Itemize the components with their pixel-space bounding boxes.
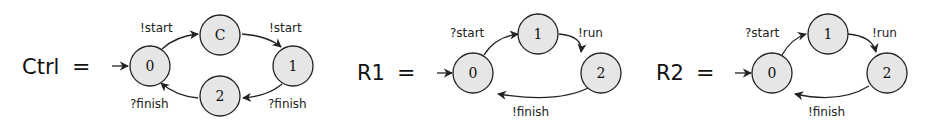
svg-text:2: 2 bbox=[597, 65, 606, 81]
state-node: 0 bbox=[752, 53, 792, 93]
automaton-name: Ctrl bbox=[22, 55, 59, 79]
transition-edge bbox=[782, 34, 806, 55]
automaton-ctrl: Ctrl = !start !start ?finish ?finish 0 C… bbox=[22, 15, 313, 116]
transition-edge bbox=[795, 86, 869, 98]
automaton-r1: R1 = ?start !run !finish 0 1 2 bbox=[357, 14, 621, 119]
transition-label: ?start bbox=[745, 26, 780, 40]
svg-text:C: C bbox=[215, 27, 226, 43]
state-node: 1 bbox=[808, 14, 848, 54]
transition-edge bbox=[484, 34, 518, 55]
equals-sign: = bbox=[696, 60, 714, 85]
svg-text:1: 1 bbox=[534, 26, 543, 42]
transition-label: ?finish bbox=[268, 97, 307, 111]
transition-label: !run bbox=[872, 26, 897, 40]
equals-sign: = bbox=[72, 54, 90, 79]
state-node: 0 bbox=[453, 53, 493, 93]
transition-edge bbox=[498, 86, 592, 98]
transition-label: ?finish bbox=[130, 97, 169, 111]
transition-label: !run bbox=[578, 26, 603, 40]
svg-text:2: 2 bbox=[883, 65, 892, 81]
transition-label: !start bbox=[140, 21, 173, 35]
transition-label: !finish bbox=[808, 105, 845, 119]
transition-edge bbox=[161, 83, 198, 98]
state-node: 2 bbox=[581, 53, 621, 93]
svg-text:0: 0 bbox=[146, 58, 155, 74]
state-node: C bbox=[200, 15, 240, 55]
transition-edge bbox=[242, 34, 281, 47]
svg-text:0: 0 bbox=[768, 65, 777, 81]
transition-label: ?start bbox=[450, 26, 485, 40]
state-node: 2 bbox=[867, 53, 907, 93]
state-node: 2 bbox=[200, 76, 240, 116]
automaton-name: R2 bbox=[656, 61, 684, 85]
svg-text:1: 1 bbox=[289, 58, 298, 74]
state-node: 1 bbox=[518, 14, 558, 54]
transition-label: !start bbox=[269, 21, 302, 35]
svg-text:0: 0 bbox=[469, 65, 478, 81]
transition-edge bbox=[243, 84, 282, 98]
automaton-name: R1 bbox=[357, 61, 385, 85]
svg-text:1: 1 bbox=[824, 26, 833, 42]
transition-label: !finish bbox=[512, 105, 549, 119]
svg-text:2: 2 bbox=[216, 88, 225, 104]
transition-edge bbox=[162, 34, 198, 49]
equals-sign: = bbox=[397, 60, 415, 85]
automaton-r2: R2 = ?start !run !finish 0 1 2 bbox=[656, 14, 907, 119]
state-node: 1 bbox=[273, 46, 313, 86]
state-node: 0 bbox=[130, 46, 170, 86]
